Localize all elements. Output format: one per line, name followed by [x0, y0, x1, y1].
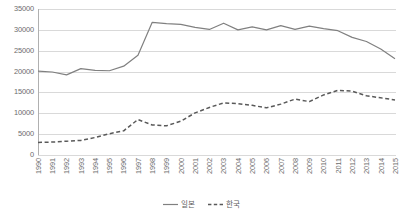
- y-tick-label: 0: [0, 151, 34, 159]
- x-tick-label: 2015: [392, 158, 400, 174]
- x-tick-label: 1997: [135, 158, 143, 174]
- series-line: [38, 90, 395, 142]
- x-tick-label: 1995: [106, 158, 114, 174]
- x-tick-label: 1990: [35, 158, 43, 174]
- plot-area: [38, 9, 396, 155]
- legend-label: 한국: [226, 200, 240, 209]
- series-line: [38, 22, 395, 75]
- x-tick-label: 1994: [92, 158, 100, 174]
- x-tick-label: 2006: [263, 158, 271, 174]
- y-axis: 05000100001500020000250003000035000: [0, 0, 34, 165]
- x-tick-label: 1998: [149, 158, 157, 174]
- line-chart: 05000100001500020000250003000035000 1990…: [0, 0, 402, 218]
- x-tick-label: 2002: [206, 158, 214, 174]
- solid-line-icon: [163, 201, 178, 208]
- x-tick-label: 2011: [335, 158, 343, 174]
- legend-label: 일본: [181, 200, 195, 209]
- x-tick-label: 2000: [178, 158, 186, 174]
- y-tick-label: 10000: [0, 109, 34, 117]
- chart-legend: 일본한국: [0, 197, 402, 211]
- x-tick-label: 1996: [120, 158, 128, 174]
- series-lines: [38, 9, 396, 155]
- y-tick-label: 35000: [0, 5, 34, 13]
- x-tick-label: 2004: [235, 158, 243, 174]
- x-tick-label: 2012: [349, 158, 357, 174]
- legend-entry[interactable]: 일본: [163, 200, 195, 209]
- y-tick-label: 15000: [0, 88, 34, 96]
- x-tick-label: 2014: [378, 158, 386, 174]
- x-tick-label: 1999: [163, 158, 171, 174]
- x-axis: 1990199119921993199419951996199719981999…: [38, 158, 396, 194]
- x-tick-label: 2007: [278, 158, 286, 174]
- x-tick-label: 1993: [78, 158, 86, 174]
- x-tick-label: 2013: [363, 158, 371, 174]
- x-tick-label: 2010: [320, 158, 328, 174]
- y-tick-label: 30000: [0, 26, 34, 34]
- x-tick-label: 2005: [249, 158, 257, 174]
- x-tick-label: 2001: [192, 158, 200, 174]
- y-tick-label: 20000: [0, 68, 34, 76]
- legend-entry[interactable]: 한국: [208, 200, 240, 209]
- x-tick-label: 2009: [306, 158, 314, 174]
- x-tick-label: 1991: [49, 158, 57, 174]
- dashed-line-icon: [208, 201, 223, 208]
- x-tick-label: 2008: [292, 158, 300, 174]
- y-tick-label: 25000: [0, 47, 34, 55]
- x-tick-label: 1992: [63, 158, 71, 174]
- y-tick-label: 5000: [0, 130, 34, 138]
- x-tick-label: 2003: [220, 158, 228, 174]
